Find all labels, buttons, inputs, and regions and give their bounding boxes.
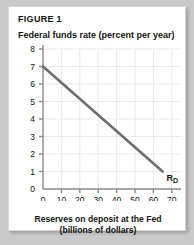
x-tick-label: 10 <box>57 195 67 201</box>
x-tick-label: 30 <box>93 195 103 201</box>
x-axis-title: Reserves on deposit at the Fed (billions… <box>9 214 187 236</box>
y-tick-label: 1 <box>30 167 35 177</box>
x-tick-label: 70 <box>167 195 177 201</box>
y-tick-label: 2 <box>30 149 35 159</box>
horizontal-gridlines <box>43 49 181 172</box>
x-axis-title-line2: (billions of dollars) <box>9 225 187 236</box>
y-axis-title: Federal funds rate (percent per year) <box>18 30 175 40</box>
y-tick-label: 0 <box>30 184 35 194</box>
x-tick-label: 20 <box>75 195 85 201</box>
curve-label-rd: RD <box>167 173 179 184</box>
x-axis-title-line1: Reserves on deposit at the Fed <box>9 214 187 225</box>
x-tick-label: 60 <box>149 195 159 201</box>
y-tick-label: 4 <box>30 114 35 124</box>
x-tick-label: 0 <box>41 195 46 201</box>
y-axis-tick-labels: 012345678 <box>30 44 35 194</box>
chart-svg: 012345678 010203040506070 RD <box>9 41 187 201</box>
y-tick-label: 5 <box>30 97 35 107</box>
figure-label: FIGURE 1 <box>18 14 62 24</box>
y-tick-label: 3 <box>30 132 35 142</box>
y-tick-label: 7 <box>30 62 35 72</box>
x-tick-label: 40 <box>112 195 122 201</box>
figure-card: FIGURE 1 Federal funds rate (percent per… <box>8 6 186 231</box>
curve-label-subscript: D <box>173 177 178 184</box>
x-tick-label: 50 <box>130 195 140 201</box>
plot-area: 012345678 010203040506070 RD <box>9 41 187 201</box>
y-tick-label: 8 <box>30 44 35 54</box>
y-tick-label: 6 <box>30 79 35 89</box>
x-axis-tick-labels: 010203040506070 <box>41 195 177 201</box>
